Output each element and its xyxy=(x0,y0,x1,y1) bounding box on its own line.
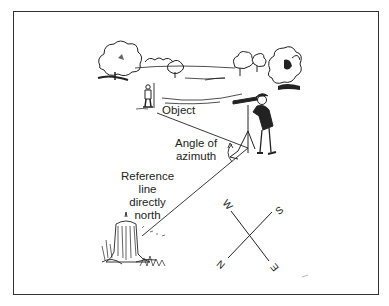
surveyor-icon xyxy=(230,94,276,159)
angle-label-line1: Angle of xyxy=(175,137,217,150)
trees-left-icon xyxy=(98,41,184,80)
ref-label-line2: line xyxy=(121,183,174,196)
object-label: Object xyxy=(162,104,195,117)
ref-label-line1: Reference xyxy=(121,170,174,183)
compass-lines xyxy=(228,211,272,261)
ref-label-line3: directly xyxy=(121,196,174,209)
trees-right-icon xyxy=(234,47,302,90)
object-person-icon xyxy=(136,83,154,109)
pencil-mark xyxy=(302,275,308,277)
angle-arc-icon xyxy=(228,143,233,162)
ref-label-line4: north xyxy=(121,209,174,222)
angle-label-line2: azimuth xyxy=(175,150,217,163)
angle-of-azimuth-label: Angle of azimuth xyxy=(175,137,217,163)
reference-line-label: Reference line directly north xyxy=(121,170,174,222)
